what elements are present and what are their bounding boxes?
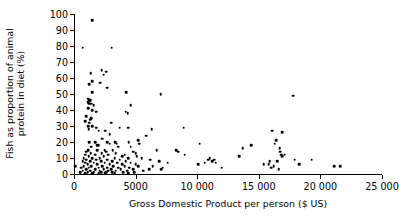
data-point (89, 118, 92, 121)
data-point (104, 162, 107, 165)
data-point (92, 162, 95, 165)
data-point (108, 133, 111, 136)
data-point (94, 141, 97, 144)
x-tick-mark (320, 175, 321, 179)
data-point (100, 69, 103, 72)
data-point (140, 157, 143, 160)
data-point (88, 141, 91, 144)
data-point (182, 126, 185, 129)
y-axis-title: Fish as proportion of animal protein in … (0, 1, 32, 186)
x-axis-line (74, 174, 382, 175)
data-point (121, 155, 124, 158)
data-point (105, 150, 108, 153)
data-point (270, 166, 273, 169)
data-point (123, 165, 126, 168)
data-point (118, 126, 121, 129)
data-point (100, 152, 103, 155)
data-point (250, 144, 253, 147)
data-point (238, 155, 241, 158)
x-axis-title: Gross Domestic Product per person ($ US) (74, 198, 382, 209)
data-point (89, 160, 92, 163)
data-point (95, 158, 98, 161)
data-point (221, 166, 224, 169)
data-point (203, 162, 206, 165)
data-point (80, 166, 83, 169)
data-point (89, 152, 92, 155)
data-point (106, 166, 109, 169)
data-point (101, 165, 104, 168)
data-point (97, 172, 100, 175)
data-point (160, 168, 163, 171)
data-point (97, 130, 100, 133)
data-point (102, 168, 105, 171)
data-point (152, 165, 155, 168)
data-point (91, 80, 94, 83)
data-point (85, 150, 88, 153)
y-tick-mark (70, 110, 74, 111)
data-point (136, 155, 139, 158)
data-point (155, 149, 158, 152)
data-point (150, 128, 153, 131)
y-axis-title-line-2: protein in diet (%) (16, 51, 27, 136)
y-tick-mark (70, 78, 74, 79)
plot-area: 0102030405060708090100 0500010 00015 000… (74, 14, 382, 175)
x-tick-mark (259, 175, 260, 179)
data-point (127, 172, 130, 175)
y-tick-mark (70, 142, 74, 143)
data-point (81, 46, 84, 49)
data-point (91, 157, 94, 160)
data-point (132, 168, 135, 171)
data-point (79, 171, 82, 174)
data-point (198, 142, 201, 145)
data-point (97, 144, 100, 147)
data-point (91, 19, 94, 22)
data-point (127, 126, 130, 129)
data-point (88, 122, 91, 125)
data-point (88, 102, 91, 105)
data-point (89, 72, 92, 75)
data-point (293, 158, 296, 161)
data-point (339, 165, 342, 168)
data-point (128, 166, 131, 169)
data-point (211, 160, 214, 163)
data-point (298, 163, 301, 166)
data-point (83, 165, 86, 168)
data-point (95, 110, 98, 113)
data-point (115, 142, 118, 145)
data-point (110, 122, 113, 125)
data-point (129, 104, 132, 107)
data-point (87, 166, 90, 169)
data-point (90, 146, 93, 149)
data-point (120, 168, 123, 171)
data-point (272, 165, 275, 168)
data-point (85, 158, 88, 161)
data-point (107, 170, 110, 173)
y-tick-label: 20 (56, 137, 68, 148)
data-point (127, 157, 130, 160)
data-point (118, 158, 121, 161)
data-point (137, 165, 140, 168)
data-point (145, 134, 148, 137)
data-point (85, 168, 88, 171)
y-tick-label: 90 (56, 25, 68, 36)
data-point (113, 172, 116, 175)
data-point (87, 155, 90, 158)
y-tick-mark (70, 158, 74, 159)
data-point (292, 94, 295, 97)
data-point (91, 125, 94, 128)
y-tick-label: 30 (56, 121, 68, 132)
data-point (267, 163, 270, 166)
x-tick-label: 20 000 (304, 181, 338, 192)
data-point (102, 74, 105, 77)
data-point (148, 168, 151, 171)
data-point (277, 168, 280, 171)
data-point (116, 162, 119, 165)
y-tick-label: 100 (50, 9, 68, 20)
data-point (129, 146, 132, 149)
data-point (106, 86, 109, 89)
y-tick-mark (70, 126, 74, 127)
data-point (124, 160, 127, 163)
data-point (112, 149, 115, 152)
data-point (107, 154, 110, 157)
